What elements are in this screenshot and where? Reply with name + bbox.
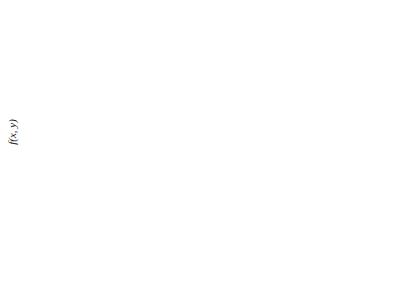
figure-3d-surface-plot: f(x, y) bbox=[0, 0, 395, 298]
plot-canvas: f(x, y) bbox=[0, 0, 395, 298]
z-axis-title: f(x, y) bbox=[6, 119, 19, 145]
